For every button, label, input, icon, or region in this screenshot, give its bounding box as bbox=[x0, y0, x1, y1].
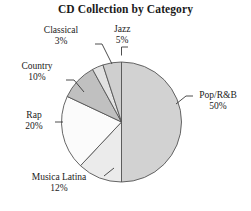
slice-label-classical-pct: 3% bbox=[27, 36, 95, 47]
slice-label-musica-latina-name: Musica Latina bbox=[32, 172, 87, 182]
slice-label-country-name: Country bbox=[21, 61, 52, 71]
pie-slice-group bbox=[61, 62, 181, 182]
slice-label-jazz: Jazz 5% bbox=[114, 24, 130, 45]
slice-label-pop-rnb-name: Pop/R&B bbox=[199, 90, 237, 100]
slice-label-country: Country 10% bbox=[8, 61, 66, 82]
slice-label-jazz-pct: 5% bbox=[114, 35, 130, 46]
slice-label-musica-latina-pct: 12% bbox=[14, 183, 104, 194]
slice-label-country-pct: 10% bbox=[8, 72, 66, 83]
leader-line-classical bbox=[95, 44, 112, 64]
slice-label-rap-pct: 20% bbox=[14, 121, 54, 132]
slice-label-classical-name: Classical bbox=[44, 25, 78, 35]
slice-label-rap-name: Rap bbox=[26, 110, 41, 120]
slice-label-classical: Classical 3% bbox=[27, 25, 95, 46]
slice-label-rap: Rap 20% bbox=[14, 110, 54, 131]
slice-label-jazz-name: Jazz bbox=[114, 24, 130, 34]
pie-chart-figure: CD Collection by Category Jazz 5% Classi… bbox=[0, 0, 251, 211]
slice-label-pop-rnb: Pop/R&B 50% bbox=[190, 90, 246, 111]
leader-line-jazz bbox=[122, 47, 129, 56]
slice-label-pop-rnb-pct: 50% bbox=[190, 101, 246, 112]
pie-slice-pop-r-b bbox=[122, 62, 182, 182]
slice-label-musica-latina: Musica Latina 12% bbox=[14, 172, 104, 193]
